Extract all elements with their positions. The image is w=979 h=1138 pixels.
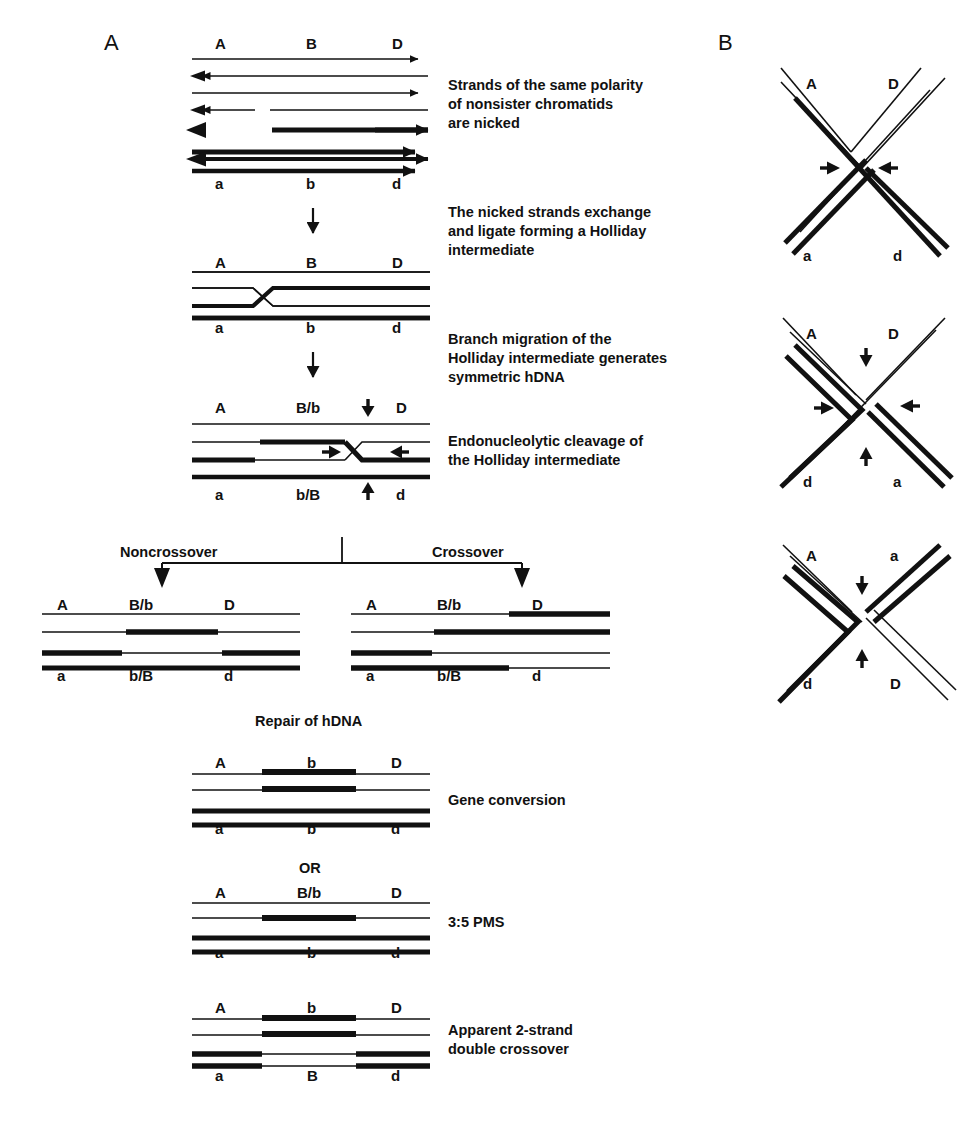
double-crossover-strands (192, 1018, 430, 1066)
crossover-strands (351, 614, 610, 668)
branch-connector (154, 537, 530, 588)
step1-strands (192, 59, 428, 171)
chi-structure-3 (779, 545, 956, 702)
figure-recombination-model: A B A B D a b d Strands of the same pola… (0, 0, 979, 1138)
pms-strands (192, 903, 430, 952)
gene-conversion-strands (192, 772, 430, 825)
noncrossover-strands (42, 614, 300, 668)
step2-crossing-overlay (186, 280, 436, 314)
step3-cleavage-arrows (322, 399, 409, 500)
chi-structure-2 (781, 318, 952, 487)
diagram-artwork (0, 0, 979, 1138)
chi-structure-1 (781, 68, 948, 256)
